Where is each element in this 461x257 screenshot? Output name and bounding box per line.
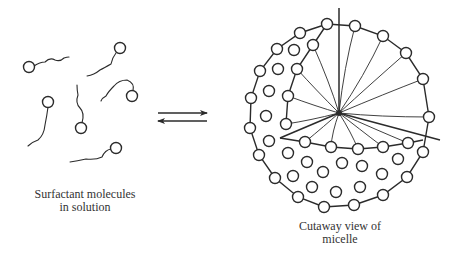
- hydrophobic-tail: [28, 107, 48, 146]
- micelle-head: [307, 182, 318, 193]
- micelle-head: [337, 158, 348, 169]
- micelle-head: [322, 19, 333, 30]
- micelle-head: [350, 21, 361, 32]
- diagram-canvas: [0, 0, 461, 257]
- micelle-head: [318, 167, 329, 178]
- hydrophilic-head: [43, 97, 54, 108]
- micelle-head: [288, 171, 299, 182]
- micelle-head: [281, 119, 292, 130]
- micelle-head: [273, 64, 284, 75]
- hydrophilic-head: [76, 123, 87, 134]
- micelle-head: [292, 64, 303, 75]
- micelle-head: [418, 147, 429, 158]
- micelle-head: [402, 172, 413, 183]
- micelle-tail: [339, 26, 355, 113]
- micelle-tail: [339, 53, 406, 113]
- hydrophilic-head: [111, 143, 122, 154]
- surfactant-molecule: [28, 97, 54, 147]
- micelle-diagram: Surfactant molecules in solution Cutaway…: [0, 0, 461, 257]
- micelle-head: [264, 86, 275, 97]
- micelle-head: [272, 44, 283, 55]
- micelle-caption: Cutaway view of micelle: [275, 220, 405, 246]
- micelle-head: [300, 137, 311, 148]
- surfactant-molecule: [87, 43, 126, 77]
- micelle-head: [255, 66, 266, 77]
- micelle-head: [349, 200, 360, 211]
- micelle-head: [261, 111, 272, 122]
- micelle-tail: [313, 45, 339, 113]
- hydrophilic-head: [24, 62, 35, 73]
- micelle-core: [336, 110, 342, 116]
- micelle-head: [418, 74, 429, 85]
- hydrophobic-tail: [70, 149, 111, 162]
- micelle-head: [353, 144, 364, 155]
- micelle-head: [283, 91, 294, 102]
- surfactant-molecule: [70, 143, 122, 163]
- hydrophilic-head: [115, 43, 126, 54]
- hydrophobic-tail: [77, 85, 83, 123]
- micelle-head: [289, 45, 300, 56]
- micelle-head: [245, 123, 256, 134]
- micelle-caption-line2: micelle: [275, 233, 405, 246]
- equilibrium-arrows: [158, 113, 207, 121]
- micelle-head: [326, 142, 337, 153]
- micelle-head: [283, 148, 294, 159]
- hydrophobic-tail: [34, 57, 69, 66]
- micelle-head: [378, 142, 389, 153]
- surfactant-molecule: [76, 85, 87, 134]
- micelle-head: [254, 150, 265, 161]
- micelle-head: [295, 28, 306, 39]
- surfactant-molecule: [24, 57, 70, 73]
- micelle-head: [357, 161, 368, 172]
- surfactant-caption-line2: in solution: [10, 201, 160, 214]
- micelle-head: [355, 182, 366, 193]
- micelle-head: [393, 154, 404, 165]
- micelle-tail: [339, 36, 383, 113]
- surfactant-molecules-group: [24, 43, 138, 163]
- micelle-tail: [286, 113, 339, 124]
- surfactant-molecule: [101, 80, 138, 102]
- micelle-head: [246, 93, 257, 104]
- micelle-head: [270, 173, 281, 184]
- micelle-head: [401, 48, 412, 59]
- micelle-head: [378, 190, 389, 201]
- micelle-head: [293, 192, 304, 203]
- micelle-tail: [288, 96, 339, 113]
- micelle-tail: [339, 79, 423, 113]
- micelle-head: [424, 112, 435, 123]
- micelle-head: [302, 157, 313, 168]
- hydrophilic-head: [127, 91, 138, 102]
- micelle-head: [331, 187, 342, 198]
- hydrophobic-tail: [87, 53, 116, 76]
- micelle-head: [264, 136, 275, 147]
- micelle-head: [403, 138, 414, 149]
- micelle-head: [377, 169, 388, 180]
- surfactant-caption: Surfactant molecules in solution: [10, 188, 160, 214]
- micelle-cutaway: [245, 8, 441, 213]
- micelle-head: [308, 40, 319, 51]
- micelle-head: [378, 31, 389, 42]
- micelle-head: [319, 202, 330, 213]
